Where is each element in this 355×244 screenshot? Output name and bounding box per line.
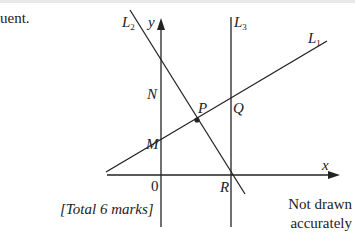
label-l2: L2 (121, 14, 135, 32)
label-r: R (219, 179, 229, 195)
point-p-dot (194, 117, 199, 122)
label-p: P (197, 100, 207, 116)
total-marks: [Total 6 marks] (60, 201, 154, 218)
note-line-1: Not drawn (278, 195, 352, 214)
x-axis-arrow-icon (328, 171, 340, 179)
label-l1: L1 (307, 30, 321, 48)
line-l2 (130, 10, 245, 194)
label-y-axis: y (146, 14, 155, 30)
label-n: N (146, 86, 158, 102)
label-origin: 0 (151, 178, 159, 194)
line-l1 (106, 41, 327, 172)
note-line-2: accurately (278, 214, 352, 233)
y-axis-arrow-icon (157, 18, 165, 30)
label-x-axis: x (321, 157, 329, 173)
label-q: Q (233, 100, 244, 116)
label-l3: L3 (233, 14, 247, 32)
label-m: M (145, 136, 160, 152)
not-drawn-accurately-note: Not drawn accurately (278, 195, 352, 233)
